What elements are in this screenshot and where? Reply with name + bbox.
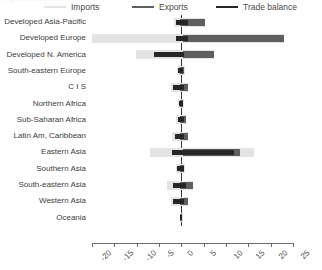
axis-line: [92, 243, 293, 244]
bars-area: [0, 15, 322, 243]
axis-tick-label: 5: [209, 249, 218, 258]
plot-area: Developed Asia-PacificDeveloped EuropeDe…: [0, 15, 322, 270]
chart-legend: ImportsExportsTrade balance: [0, 0, 322, 15]
axis-tick: [114, 243, 115, 247]
legend-swatch-icon: [132, 6, 154, 8]
legend-item-trade-balance[interactable]: Trade balance: [216, 0, 297, 14]
axis-tick: [181, 243, 182, 247]
bar-trade-balance: [177, 166, 183, 171]
axis-tick-label: -10: [144, 249, 158, 263]
axis-tick-label: 15: [255, 249, 267, 261]
legend-label: Imports: [71, 3, 99, 12]
bar-trade-balance: [180, 215, 182, 220]
bar-trade-balance: [176, 36, 188, 41]
axis-tick-label: 25: [300, 249, 312, 261]
axis-tick-label: -15: [122, 249, 136, 263]
bar-exports: [183, 35, 284, 42]
legend-item-imports[interactable]: Imports: [44, 0, 99, 14]
legend-label: Trade balance: [243, 3, 297, 12]
axis-tick-label: 20: [277, 249, 289, 261]
axis-tick: [293, 243, 294, 247]
bar-exports: [183, 51, 215, 58]
value-axis: -20-15-10-50510152025: [0, 243, 322, 270]
axis-tick: [271, 243, 272, 247]
legend-item-exports[interactable]: Exports: [132, 0, 188, 14]
bar-trade-balance: [154, 52, 183, 57]
bar-trade-balance: [179, 101, 183, 106]
axis-tick: [159, 243, 160, 247]
bar-trade-balance: [173, 183, 186, 188]
legend-swatch-icon: [216, 6, 238, 8]
axis-tick: [204, 243, 205, 247]
axis-tick-label: 0: [187, 249, 196, 258]
axis-tick: [137, 243, 138, 247]
bar-trade-balance: [173, 85, 184, 90]
chart-container: Imports / Exports ImportsExportsTrade ba…: [0, 0, 322, 270]
axis-tick: [226, 243, 227, 247]
bar-trade-balance: [175, 134, 184, 139]
bar-trade-balance: [178, 68, 183, 73]
bar-trade-balance: [172, 150, 234, 155]
axis-tick-label: -5: [165, 249, 176, 260]
axis-tick: [248, 243, 249, 247]
legend-label: Exports: [159, 3, 188, 12]
axis-tick-label: 10: [233, 249, 245, 261]
axis-tick-label: -20: [99, 249, 113, 263]
bar-trade-balance: [178, 117, 183, 122]
bar-trade-balance: [173, 199, 184, 204]
axis-tick: [92, 243, 93, 247]
legend-swatch-icon: [44, 6, 66, 8]
bar-trade-balance: [176, 20, 189, 25]
